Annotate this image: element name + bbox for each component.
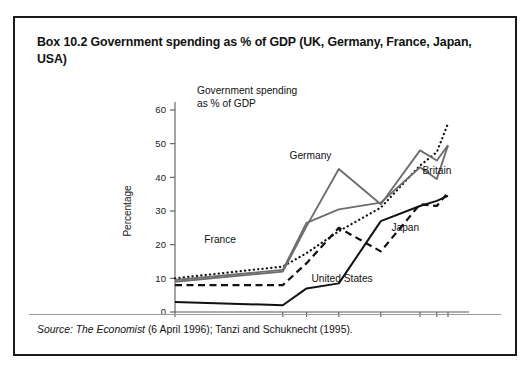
series-label-france: France	[204, 234, 236, 245]
box-container: Box 10.2 Government spending as % of GDP…	[13, 16, 517, 356]
y-tick-label: 30	[155, 205, 166, 216]
series-label-germany: Germany	[290, 150, 333, 161]
source-prefix: Source:	[37, 324, 73, 335]
chart-figure: 010203040506018701913203760809094Percent…	[15, 78, 519, 308]
series-label-japan: Japan	[391, 222, 419, 233]
series-line-france	[175, 123, 448, 278]
y-tick-label: 50	[155, 138, 166, 149]
line-chart: 010203040506018701913203760809094Percent…	[15, 78, 519, 318]
series-label-united-states: United States	[312, 273, 373, 284]
series-label-britain: Britain	[422, 165, 451, 176]
y-tick-label: 20	[155, 239, 166, 250]
y-tick-label: 0	[161, 306, 166, 317]
series-line-britain	[175, 145, 448, 280]
source-publication: The Economist	[76, 324, 145, 335]
source-rest: (6 April 1996); Tanzi and Schuknecht (19…	[145, 324, 353, 335]
series-line-germany	[175, 145, 448, 281]
chart-title-line2: as % of GDP	[197, 98, 256, 109]
y-tick-label: 60	[155, 104, 166, 115]
box-title: Box 10.2 Government spending as % of GDP…	[37, 34, 477, 68]
source-note: Source: The Economist (6 April 1996); Ta…	[37, 324, 487, 335]
y-tick-label: 10	[155, 273, 166, 284]
y-axis-title: Percentage	[122, 185, 133, 237]
y-tick-label: 40	[155, 172, 166, 183]
chart-title-line1: Government spending	[197, 85, 298, 96]
divider	[29, 314, 501, 315]
